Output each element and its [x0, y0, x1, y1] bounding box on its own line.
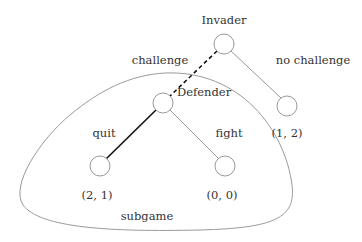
payoff-no-challenge: (1, 2) — [272, 126, 303, 140]
game-tree-diagram: Invader challenge no challenge Defender … — [0, 0, 362, 242]
no-challenge-label: no challenge — [276, 53, 351, 67]
leaf-no-challenge-node — [277, 96, 297, 116]
leaf-fight-node — [215, 156, 235, 176]
quit-label: quit — [92, 126, 115, 140]
payoff-quit: (2, 1) — [82, 188, 113, 202]
subgame-label: subgame — [121, 209, 174, 223]
edge-no-challenge — [231, 51, 281, 98]
defender-node — [153, 93, 173, 113]
fight-label: fight — [215, 126, 242, 140]
payoff-fight: (0, 0) — [207, 188, 238, 202]
challenge-label: challenge — [132, 53, 189, 67]
invader-node — [214, 34, 234, 54]
defender-label: Defender — [177, 85, 232, 99]
leaf-quit-node — [90, 156, 110, 176]
edge-fight — [170, 110, 219, 159]
invader-label: Invader — [202, 13, 247, 27]
